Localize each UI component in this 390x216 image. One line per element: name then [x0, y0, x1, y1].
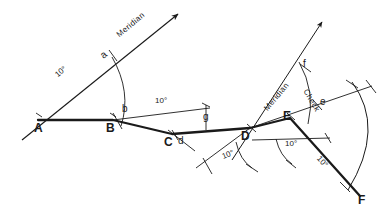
station-label-a: A — [34, 122, 43, 134]
station-label-f: F — [358, 194, 366, 206]
traverse-svg — [0, 0, 390, 216]
point-label-b: b — [122, 104, 128, 114]
angle-label-e: 10° — [285, 140, 297, 148]
station-label-e: E — [283, 110, 291, 122]
point-label-e: e — [320, 97, 326, 107]
traverse-diagram: A B C D E F a b d e f g 10° 10° 10° 10° … — [0, 0, 390, 216]
closing-arc-right — [340, 80, 368, 192]
angle-label-bc: 10° — [155, 97, 167, 105]
point-label-f: f — [303, 59, 306, 69]
station-label-d: D — [241, 130, 250, 142]
point-label-g: g — [203, 112, 209, 122]
station-label-b: B — [106, 122, 115, 134]
station-label-c: C — [164, 136, 173, 148]
point-label-d: d — [178, 136, 184, 146]
traverse-route — [38, 118, 360, 196]
